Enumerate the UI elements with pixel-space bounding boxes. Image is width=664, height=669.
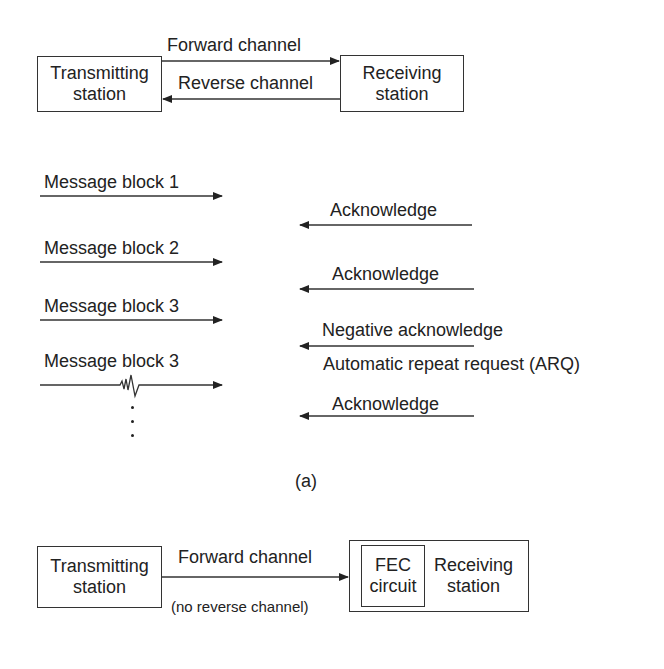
fec-transmitter-line2: station xyxy=(73,577,126,597)
fec-forward-channel-label: Forward channel xyxy=(178,547,312,567)
continuation-dot xyxy=(131,420,134,423)
fec-transmitting-station-box: Transmitting station xyxy=(37,546,162,608)
transmitter-label-line1: Transmitting xyxy=(50,63,148,83)
fec-receiving-station-box: FEC circuit Receiving station xyxy=(349,540,529,612)
fec-circuit-box: FEC circuit xyxy=(361,545,425,607)
fec-transmitter-line1: Transmitting xyxy=(50,556,148,576)
message-label-1: Message block 1 xyxy=(44,172,179,192)
ack-label-1: Acknowledge xyxy=(330,200,437,220)
forward-channel-label: Forward channel xyxy=(167,35,301,55)
message-arrow-4-noisy xyxy=(40,375,222,396)
fec-line2: circuit xyxy=(369,576,416,596)
message-label-3: Message block 3 xyxy=(44,296,179,316)
receiver-label-line1: Receiving xyxy=(362,63,441,83)
receiving-station-box: Receiving station xyxy=(340,55,464,112)
fec-receiver-line1: Receiving xyxy=(434,555,513,575)
message-label-2: Message block 2 xyxy=(44,238,179,258)
transmitting-station-box: Transmitting station xyxy=(37,56,162,112)
receiver-label-line2: station xyxy=(375,84,428,104)
transmitter-label-line2: station xyxy=(73,84,126,104)
continuation-dot xyxy=(131,434,134,437)
ack-label-3: Acknowledge xyxy=(332,394,439,414)
caption-a: (a) xyxy=(295,471,317,491)
fec-line1: FEC xyxy=(375,555,411,575)
continuation-dot xyxy=(131,406,134,409)
message-label-4: Message block 3 xyxy=(44,351,179,371)
fec-receiver-line2: station xyxy=(447,576,500,596)
nak-label: Negative acknowledge xyxy=(322,320,503,340)
ack-label-2: Acknowledge xyxy=(332,264,439,284)
arq-label: Automatic repeat request (ARQ) xyxy=(323,354,580,374)
no-reverse-channel-note: (no reverse channel) xyxy=(171,597,309,617)
reverse-channel-label: Reverse channel xyxy=(178,73,313,93)
